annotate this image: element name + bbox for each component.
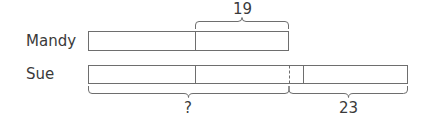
bottom-right-brace-value: 23 [339,101,358,116]
mandy-bar-outline [89,32,289,51]
sue-bar [89,66,408,84]
top-brace [196,18,289,30]
top-brace-value: 19 [233,2,252,17]
bar-model-diagram [0,0,432,126]
mandy-bar [89,32,289,51]
bottom-right-brace [289,86,408,98]
bottom-left-brace-value: ? [184,101,192,116]
sue-label: Sue [26,67,54,82]
bottom-left-brace [89,86,290,98]
mandy-label: Mandy [26,34,76,49]
sue-bar-outline [89,66,408,84]
